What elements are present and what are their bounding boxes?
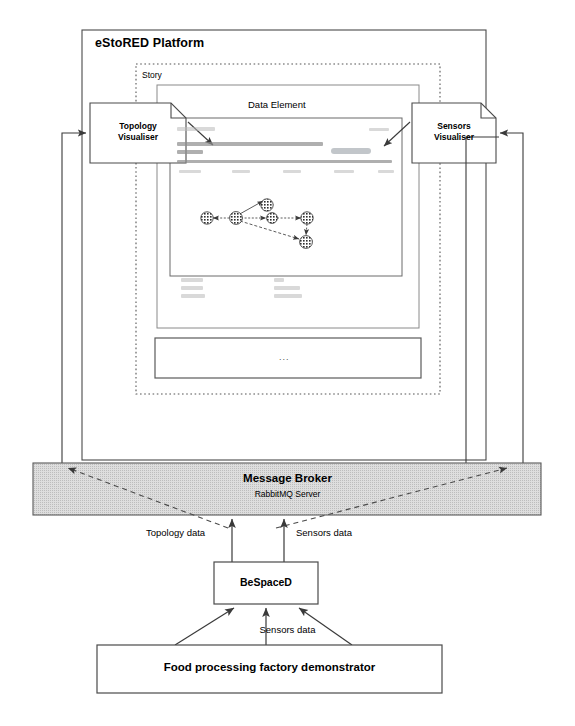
sensors-visualiser-line2: Visualiser: [414, 132, 494, 143]
sensors-visualiser-line1: Sensors: [414, 121, 494, 132]
bespaced-label: BeSpaceD: [214, 576, 318, 588]
story-label: Story: [142, 70, 162, 80]
flow-arrows-to-broker: [232, 519, 284, 562]
topology-visualiser-line1: Topology: [94, 121, 182, 132]
sensors-visualiser-label: Sensors Visualiser: [414, 121, 494, 143]
topology-visualiser-line2: Visualiser: [94, 132, 182, 143]
topology-data-label: Topology data: [146, 527, 205, 538]
page-title: eStoRED Platform: [95, 36, 204, 50]
ellipsis-label: ...: [279, 352, 290, 362]
message-broker-subtitle: RabbitMQ Server: [0, 489, 575, 499]
diagram-canvas: eStoRED Platform Story Data Element ... …: [0, 0, 575, 726]
factory-sensors-data-label: Sensors data: [0, 624, 575, 635]
message-broker-title: Message Broker: [0, 472, 575, 484]
data-element-panel: [157, 85, 419, 328]
topology-visualiser-label: Topology Visualiser: [94, 121, 182, 143]
bus-right-routing: [500, 133, 523, 463]
sensors-data-label: Sensors data: [296, 527, 352, 538]
factory-label: Food processing factory demonstrator: [97, 661, 442, 673]
data-element-title: Data Element: [248, 99, 306, 110]
